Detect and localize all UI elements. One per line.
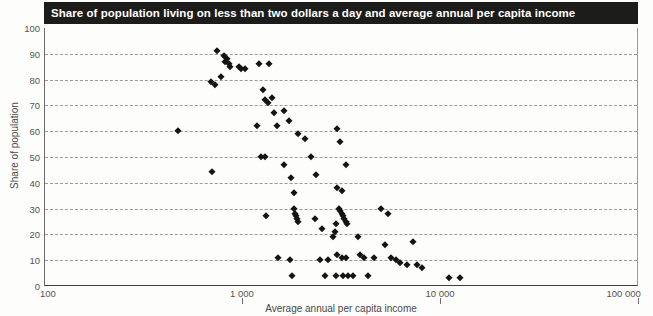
y-tick-label: 100: [2, 23, 40, 34]
y-tick-label: 0: [2, 281, 40, 292]
scatter-point: [332, 220, 340, 228]
scatter-point: [174, 127, 182, 135]
scatter-point: [365, 272, 373, 280]
x-axis-label: Average annual per capita income: [44, 303, 638, 314]
scatter-point: [286, 256, 294, 264]
scatter-point: [265, 60, 273, 68]
scatter-point: [409, 238, 417, 246]
scatter-point: [418, 264, 426, 272]
scatter-point: [370, 254, 378, 262]
scatter-point: [241, 65, 249, 73]
y-tick-label: 90: [2, 48, 40, 59]
scatter-point: [456, 274, 464, 282]
x-tick-label: 100 000: [606, 288, 640, 299]
scatter-point: [316, 256, 324, 264]
scatter-point: [325, 256, 333, 264]
scatter-point: [334, 125, 342, 133]
scatter-point: [361, 254, 369, 262]
scatter-point: [349, 272, 357, 280]
scatter-point: [262, 213, 270, 221]
x-axis-ticks: 1001 00010 000100 000: [44, 288, 638, 304]
plot-area: [44, 28, 638, 286]
scatter-point: [396, 259, 404, 267]
y-axis-ticks: Share of population 01020304050607080901…: [0, 28, 40, 286]
scatter-point: [403, 262, 411, 270]
scatter-point: [261, 153, 269, 161]
chart-figure: Share of population living on less than …: [0, 0, 653, 316]
scatter-point: [288, 272, 296, 280]
scatter-point: [294, 130, 302, 138]
y-tick-label: 60: [2, 126, 40, 137]
y-tick-label: 70: [2, 100, 40, 111]
y-tick-label: 80: [2, 74, 40, 85]
scatter-point: [342, 161, 350, 169]
scatter-point: [255, 60, 263, 68]
y-tick-label: 10: [2, 255, 40, 266]
scatter-point: [321, 272, 329, 280]
scatter-point: [290, 189, 298, 197]
scatter-point: [217, 73, 225, 81]
x-tick-label: 1 000: [230, 288, 254, 299]
scatter-point: [301, 135, 309, 143]
scatter-point: [273, 122, 281, 130]
y-axis-label: Share of population: [9, 76, 20, 216]
scatter-point: [336, 138, 344, 146]
page-title: Share of population living on less than …: [44, 7, 575, 19]
x-tick-label: 100: [40, 288, 56, 299]
scatter-point: [384, 210, 392, 218]
scatter-point: [307, 153, 315, 161]
chart-title-bar: Share of population living on less than …: [44, 2, 638, 24]
y-tick-label: 30: [2, 203, 40, 214]
scatter-point: [274, 254, 282, 262]
scatter-point: [313, 171, 321, 179]
scatter-points: [45, 28, 637, 285]
scatter-point: [378, 205, 386, 213]
scatter-point: [318, 225, 326, 233]
scatter-point: [445, 274, 453, 282]
scatter-point: [213, 47, 221, 55]
scatter-point: [354, 233, 362, 241]
scatter-point: [271, 109, 279, 117]
scatter-point: [281, 161, 289, 169]
scatter-point: [259, 86, 267, 94]
x-tick-label: 10 000: [425, 288, 454, 299]
scatter-point: [311, 215, 319, 223]
y-tick-label: 40: [2, 177, 40, 188]
scatter-point: [253, 122, 261, 130]
scatter-point: [285, 117, 293, 125]
scatter-point: [209, 169, 217, 177]
y-tick-label: 50: [2, 152, 40, 163]
scatter-point: [281, 107, 289, 115]
scatter-point: [287, 174, 295, 182]
y-tick-label: 20: [2, 229, 40, 240]
scatter-point: [381, 241, 389, 249]
